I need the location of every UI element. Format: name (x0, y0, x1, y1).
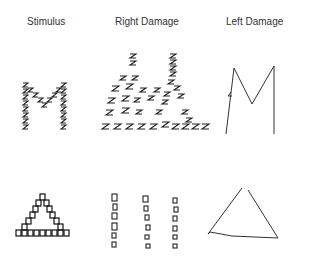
column-header-left-damage: Left Damage (226, 16, 283, 27)
stimulus-triangle-of-squares-drawing (14, 192, 70, 244)
right-damage-scattered-z-drawing (100, 50, 212, 150)
left-damage-triangle-drawing (206, 186, 282, 244)
column-header-right-damage: Right Damage (115, 16, 179, 27)
left-damage-m-drawing (220, 64, 280, 138)
right-damage-columns-of-squares-drawing (106, 190, 186, 250)
column-header-stimulus: Stimulus (27, 16, 65, 27)
stimulus-m-of-z-drawing (15, 80, 75, 140)
